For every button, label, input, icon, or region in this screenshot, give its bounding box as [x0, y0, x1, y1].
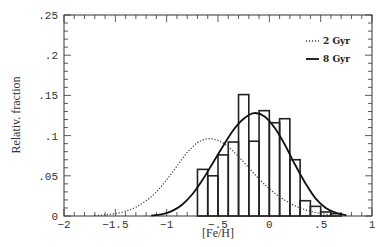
histogram-bar	[269, 123, 279, 216]
histogram-bar	[300, 201, 310, 216]
x-tick-label: .5	[314, 219, 327, 231]
x-tick-label: −1.5	[102, 219, 128, 231]
histogram-bar	[197, 169, 207, 216]
legend-label: 8 Gyr	[323, 54, 350, 64]
histogram-bar	[280, 119, 290, 216]
x-tick-label: −2	[57, 219, 70, 231]
histogram-bar	[239, 95, 249, 216]
y-tick-labels: 0.05.1.15.2.25	[38, 10, 58, 223]
histogram-bar	[259, 111, 269, 216]
y-tick-label: .25	[38, 10, 58, 22]
y-tick-label: 0	[51, 211, 58, 223]
x-axis-label: [Fe/H]	[202, 226, 234, 240]
chart: −2−1.5−1−.50.51 0.05.1.15.2.25 2 Gyr8 Gy…	[0, 0, 386, 247]
histogram-bar	[208, 176, 218, 216]
histogram-bar	[249, 141, 259, 216]
histogram-bar	[321, 212, 331, 216]
y-axis-label: Relativ. fraction	[9, 76, 23, 153]
x-tick-label: 0	[266, 219, 273, 231]
y-tick-label: .05	[38, 171, 58, 183]
x-tick-label: −1	[160, 219, 174, 231]
y-tick-label: .2	[45, 50, 58, 62]
y-tick-label: .1	[45, 131, 59, 143]
legend-label: 2 Gyr	[323, 36, 350, 46]
histogram-bar	[228, 142, 238, 216]
histogram-bars	[197, 95, 341, 216]
y-tick-label: .15	[38, 90, 58, 102]
histogram-bar	[218, 155, 228, 216]
histogram-bar	[290, 160, 300, 216]
legend: 2 Gyr8 Gyr	[306, 36, 350, 64]
x-tick-label: 1	[369, 219, 376, 231]
